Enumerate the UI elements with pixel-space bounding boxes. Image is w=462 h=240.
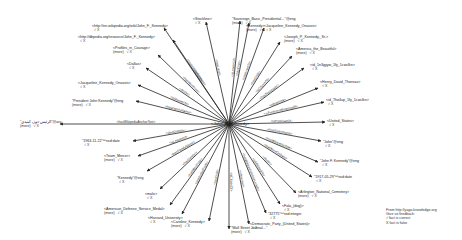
target-node[interactable]: <United_States> √ X	[327, 119, 354, 128]
more-link[interactable]: (more)	[72, 103, 84, 107]
target-node[interactable]: <American_Defense_Service_Medal>(more) √…	[104, 207, 165, 216]
more-link[interactable]: (more)	[296, 51, 308, 55]
target-node[interactable]: <Team_Mercer>(more) √ X	[104, 154, 130, 163]
target-node[interactable]: <id_Tho4up_1fy_1cwclkn> √ X	[326, 98, 369, 107]
more-link[interactable]: (more)	[246, 28, 258, 32]
verify-marks[interactable]: √ X	[127, 66, 134, 70]
relation-label[interactable]: <influences>	[268, 97, 286, 108]
target-node[interactable]: "John F. Kennedy"@eng √ X	[320, 159, 359, 168]
relation-label[interactable]: <isLeaderOf>	[169, 135, 189, 145]
verify-marks[interactable]: √ X	[193, 21, 200, 25]
verify-marks[interactable]: √ X	[320, 84, 327, 88]
verify-marks[interactable]: √ X	[250, 226, 257, 230]
verify-marks[interactable]: √ X	[244, 21, 251, 25]
verify-marks[interactable]: √ X	[78, 85, 85, 89]
target-node[interactable]: "الرئيس جون كينيدي"@ara(more) √ X	[20, 120, 61, 129]
target-node[interactable]: <Arlington_National_Cemetery>(more) √ X	[298, 190, 349, 199]
target-node[interactable]: "32775"^^xsd:integer √ X	[268, 212, 302, 221]
verify-marks[interactable]: √ X	[310, 67, 317, 71]
target-node-label[interactable]: <http://en.wikipedia.org/wiki/John_F._Ke…	[92, 24, 168, 28]
fact-false-link[interactable]: X fact is false	[386, 221, 437, 225]
verify-marks[interactable]: √ X	[84, 103, 91, 107]
verify-marks[interactable]: √ X	[308, 51, 315, 55]
verify-marks[interactable]: √ X	[116, 158, 123, 162]
relation-label[interactable]: <isCitizenOf>	[229, 172, 233, 191]
relation-label[interactable]: <hasChild>	[250, 70, 262, 86]
verify-marks[interactable]: √ X	[314, 179, 321, 183]
relation-label[interactable]: <influences>	[238, 169, 245, 188]
target-node[interactable]: <Caroline_Kennedy>(more) √ X	[171, 220, 205, 229]
verify-marks[interactable]: √ X	[296, 39, 303, 43]
fact-feedback: (more) √ X	[20, 124, 61, 128]
verify-marks[interactable]: √ X	[327, 123, 334, 127]
more-link[interactable]: (more)	[231, 230, 243, 234]
target-node[interactable]: "1963-11-22"^^xsd:date √ X	[82, 139, 120, 148]
verify-marks[interactable]: √ X	[78, 39, 85, 43]
verify-marks[interactable]: √ X	[326, 102, 333, 106]
fact-feedback: (more) √ X	[296, 51, 336, 55]
verify-marks[interactable]: √ X	[320, 163, 327, 167]
verify-marks[interactable]: √ X	[116, 211, 123, 215]
target-node-label[interactable]: <Jacqueline_Kennedy_Onassis>	[78, 81, 131, 85]
target-node[interactable]: <Henry_David_Thoreau> √ X	[320, 80, 360, 89]
relation-label[interactable]: <hasGivenName>	[267, 127, 293, 136]
target-node[interactable]: "Kennedy"@eng √ X	[117, 176, 143, 185]
verify-marks[interactable]: √ X	[82, 143, 89, 147]
verify-marks[interactable]: √ X	[323, 144, 330, 148]
fact-feedback: (more) √ X	[104, 158, 130, 162]
target-node[interactable]: <Jacqueline_Kennedy_Onassis> √ X	[78, 81, 131, 90]
more-link[interactable]: (more)	[171, 224, 183, 228]
target-node[interactable]: "President John Kennedy"@eng(more) √ X	[72, 99, 123, 108]
center-node[interactable]: <John_F._Kennedy>	[211, 121, 249, 126]
relation-label[interactable]: <hasWikipediaAnchorText>	[117, 120, 156, 124]
relation-label[interactable]: <hasLabel>	[214, 59, 222, 76]
verify-marks[interactable]: √ X	[243, 230, 250, 234]
more-link[interactable]: (more)	[298, 194, 310, 198]
verify-marks[interactable]: √ X	[92, 28, 99, 32]
verify-marks[interactable]: √ X	[268, 216, 275, 220]
verify-marks[interactable]: √ X	[264, 28, 271, 32]
target-node[interactable]: <http://dbpedia.org/resource/John_F._Ken…	[78, 35, 155, 44]
relation-label[interactable]: <hasWebsite>	[192, 67, 207, 86]
target-node[interactable]: <Stockline> √ X	[193, 17, 212, 26]
target-node-label[interactable]: <http://dbpedia.org/resource/John_F._Ken…	[78, 35, 155, 39]
target-node[interactable]: "John"@eng √ X	[323, 140, 343, 149]
verify-marks[interactable]: √ X	[117, 180, 124, 184]
target-node[interactable]: "Sovereign_Basic_Presidential…"@eng(more…	[232, 17, 296, 26]
fact-feedback: (more) √ X	[246, 28, 265, 32]
target-node[interactable]: "1917-05-29"^^xsd:date √ X	[314, 175, 352, 184]
target-node[interactable]: <Fala_(dog)> √ X	[282, 204, 304, 213]
verify-marks[interactable]: √ X	[258, 28, 265, 32]
more-link[interactable]: (more)	[113, 50, 125, 54]
relation-label[interactable]: <isMarriedTo>	[241, 60, 252, 80]
more-link[interactable]: (more)	[104, 211, 116, 215]
target-node[interactable]: <id_1n3gyyw_1fy_1cwclkn> √ X	[310, 63, 355, 72]
more-link[interactable]: (more)	[20, 124, 32, 128]
relation-label[interactable]: <diedIn>	[178, 87, 191, 97]
verify-marks[interactable]: √ X	[148, 220, 155, 224]
verify-marks[interactable]: √ X	[282, 208, 289, 212]
relation-label[interactable]: <isMarriedTo>	[170, 95, 190, 107]
target-node[interactable]: <America_the_Beautiful>(more) √ X	[296, 47, 336, 56]
verify-marks[interactable]: √ X	[125, 50, 132, 54]
relation-label[interactable]: <isPoliticianOf>	[271, 119, 293, 123]
more-link[interactable]: (more)	[104, 158, 116, 162]
target-node[interactable]: <Joseph_P._Kennedy,_Sr.>(more) √ X	[284, 35, 328, 44]
fact-feedback: √ X	[92, 28, 168, 32]
target-node[interactable]: <http://en.wikipedia.org/wiki/John_F._Ke…	[92, 24, 168, 33]
relation-label[interactable]: <hasChild>	[213, 169, 220, 186]
relation-label[interactable]: <diedOnDate>	[165, 128, 186, 136]
target-node[interactable]: <Profiles_in_Courage>(more) √ X	[113, 46, 150, 55]
target-node[interactable]: <Dallas> √ X	[127, 62, 141, 71]
verify-marks[interactable]: √ X	[310, 194, 317, 198]
target-node[interactable]: <Democratic_Party_(United_States)> √ X	[250, 222, 310, 231]
more-link[interactable]: (more)	[232, 21, 244, 25]
target-node[interactable]: <male> √ X	[145, 192, 157, 201]
target-node-label[interactable]: <Democratic_Party_(United_States)>	[250, 222, 310, 226]
feedback-footer: From http://yago-knowledge.org Give us f…	[386, 208, 437, 225]
verify-marks[interactable]: √ X	[145, 196, 152, 200]
verify-marks[interactable]: √ X	[32, 124, 39, 128]
relation-label[interactable]: <diedIn>	[261, 155, 273, 167]
verify-marks[interactable]: √ X	[183, 224, 190, 228]
more-link[interactable]: (more)	[284, 39, 296, 43]
